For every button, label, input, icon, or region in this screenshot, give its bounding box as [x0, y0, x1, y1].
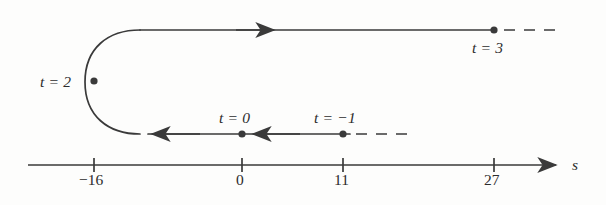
marker-tm1-dot: [339, 130, 346, 137]
motion-diagram-figure: t = 2 t = 3 t = 0 t = −1 −16 0 11 27 s: [0, 0, 606, 205]
label-t-minus-1: t = −1: [314, 110, 356, 126]
label-t2: t = 2: [40, 74, 71, 90]
tick-label-11: 11: [334, 172, 349, 188]
tick-label-27: 27: [484, 172, 500, 188]
marker-t0-dot: [238, 130, 245, 137]
marker-t2-dot: [90, 77, 97, 84]
label-t3: t = 3: [472, 40, 503, 56]
tick-label-0: 0: [236, 172, 244, 188]
s-axis: [28, 158, 556, 172]
tick-label--16: −16: [79, 172, 103, 188]
label-t0: t = 0: [219, 110, 250, 126]
marker-t3-dot: [490, 26, 497, 33]
axis-label-s: s: [572, 157, 578, 173]
